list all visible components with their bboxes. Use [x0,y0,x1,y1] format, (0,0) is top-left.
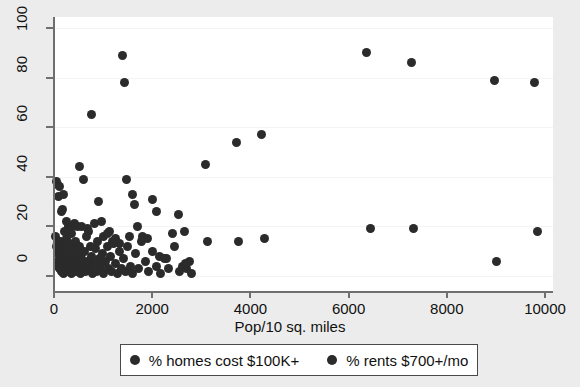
data-point [93,237,102,246]
gridline [54,78,553,79]
data-point [156,269,165,278]
data-point [123,242,132,251]
data-point [232,138,241,147]
y-tick-label: 80 [0,70,44,86]
data-point [133,222,142,231]
data-point [409,224,418,233]
x-tick-label: 8000 [430,300,463,317]
legend-label-rents: % rents $700+/mo [346,352,468,369]
data-point [152,207,161,216]
y-tick [46,176,54,178]
y-tick-label: 60 [0,119,44,135]
data-point [492,257,501,266]
data-point [118,51,127,60]
data-point [148,247,157,256]
x-tick [249,291,251,298]
data-point [137,237,146,246]
x-tick-label: 2000 [136,300,169,317]
y-tick [46,77,54,79]
legend-label-homes: % homes cost $100K+ [149,352,300,369]
data-point [94,197,103,206]
data-point [530,78,539,87]
data-point [120,78,129,87]
data-point [130,200,139,209]
data-point [260,234,269,243]
data-point [148,195,157,204]
x-tick-label: 6000 [332,300,365,317]
data-point [97,217,106,226]
legend-item-rents[interactable]: % rents $700+/mo [327,352,468,369]
y-tick-label: 0 [0,268,44,284]
data-point [119,254,128,263]
y-axis-line [53,17,55,291]
data-point [203,237,212,246]
chart-legend: % homes cost $100K+ % rents $700+/mo [120,344,478,376]
scatter-plot-figure: 0200040006000800010000 020406080100 Pop/… [0,0,580,387]
y-tick [46,225,54,227]
data-point [533,227,542,236]
gridline [54,226,553,227]
data-point [128,190,137,199]
filled-circle-marker [130,355,140,365]
data-point [59,190,68,199]
data-point [82,232,91,241]
data-point [180,227,189,236]
x-tick-label: 0 [50,300,58,317]
data-point [134,264,143,273]
data-point [234,237,243,246]
y-tick [46,275,54,277]
legend-item-homes[interactable]: % homes cost $100K+ [130,352,300,369]
y-tick [46,126,54,128]
gridline [54,127,553,128]
x-tick [53,291,55,298]
plot-area [54,17,553,291]
y-tick-label: 100 [0,20,44,36]
data-point [201,160,210,169]
x-tick [348,291,350,298]
gridline [54,28,553,29]
data-point [79,175,88,184]
data-point [125,232,134,241]
data-point [362,48,371,57]
data-point [58,205,67,214]
data-point [490,76,499,85]
y-tick [46,27,54,29]
data-point [87,110,96,119]
data-point [175,267,184,276]
data-point [168,229,177,238]
data-point [122,175,131,184]
x-axis-title: Pop/10 sq. miles [0,318,580,335]
x-axis-line [54,291,553,293]
x-tick [544,291,546,298]
data-point [141,257,150,266]
x-tick-label: 10000 [524,300,566,317]
x-tick [151,291,153,298]
y-tick-label: 40 [0,169,44,185]
data-point [257,130,266,139]
x-tick-label: 4000 [234,300,267,317]
data-point [174,210,183,219]
x-tick [446,291,448,298]
data-point [170,242,179,251]
y-tick-label: 20 [0,218,44,234]
data-point [131,249,140,258]
data-point [164,264,173,273]
data-point [75,162,84,171]
filled-circle-marker [327,355,337,365]
data-point [366,224,375,233]
data-point [407,58,416,67]
